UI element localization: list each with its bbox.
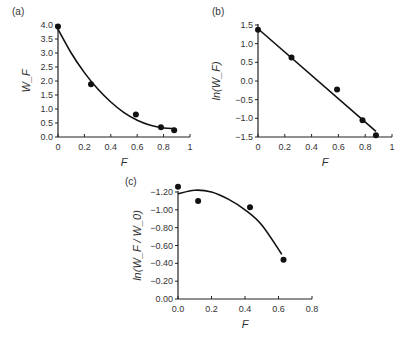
x-tick-label: 0.2 xyxy=(78,142,91,152)
data-point xyxy=(175,184,181,190)
y-tick-label: 4.0 xyxy=(40,20,53,30)
chart-panel-c: 0.00−0.20−0.40−0.60−0.80−1.00−1.200.00.2… xyxy=(125,176,318,330)
y-tick-label: 1.5 xyxy=(240,20,253,30)
x-tick-label: 0.8 xyxy=(306,304,319,314)
y-axis-label: ln(W_F / W_0) xyxy=(131,210,143,281)
x-tick-label: 0.6 xyxy=(332,142,345,152)
x-axis-label: F xyxy=(121,156,129,168)
x-axis-label: F xyxy=(242,318,250,330)
x-tick-label: 0.6 xyxy=(131,142,144,152)
y-tick-label: 1.0 xyxy=(240,39,253,49)
x-tick-label: 0.8 xyxy=(157,142,170,152)
y-tick-label: 0.5 xyxy=(240,57,253,67)
x-tick-label: 0.0 xyxy=(172,304,185,314)
y-axis-label: ln(W_F) xyxy=(210,61,222,100)
y-tick-label: 0.0 xyxy=(240,76,253,86)
y-tick-label: 3.5 xyxy=(40,34,53,44)
figure: 0.00.51.01.52.02.53.03.54.000.20.40.60.8… xyxy=(0,0,405,339)
y-tick-label: −1.0 xyxy=(235,113,253,123)
data-point xyxy=(158,124,164,130)
fit-curve xyxy=(258,29,376,132)
y-tick-label: −0.60 xyxy=(150,241,173,251)
y-tick-label: 0.5 xyxy=(40,118,53,128)
data-point xyxy=(195,198,201,204)
data-point xyxy=(373,132,379,138)
data-point xyxy=(360,117,366,123)
fit-curve xyxy=(178,190,282,254)
y-tick-label: −0.20 xyxy=(150,276,173,286)
y-tick-label: 1.0 xyxy=(40,104,53,114)
x-tick-label: 0.6 xyxy=(272,304,285,314)
data-point xyxy=(334,87,340,93)
y-tick-label: −1.5 xyxy=(235,132,253,142)
chart-panel-a: 0.00.51.01.52.02.53.03.54.000.20.40.60.8… xyxy=(12,6,193,168)
panel-label: (b) xyxy=(212,6,224,17)
y-tick-label: −1.20 xyxy=(150,187,173,197)
y-tick-label: 0.0 xyxy=(40,132,53,142)
data-point xyxy=(133,112,139,118)
y-tick-label: 1.5 xyxy=(40,90,53,100)
fit-curve xyxy=(58,29,174,128)
x-tick-label: 0 xyxy=(55,142,60,152)
x-tick-label: 1 xyxy=(187,142,192,152)
data-point xyxy=(281,257,287,263)
x-tick-label: 0.4 xyxy=(105,142,118,152)
x-tick-label: 0 xyxy=(255,142,260,152)
y-tick-label: −0.80 xyxy=(150,223,173,233)
data-point xyxy=(171,127,177,133)
y-axis-label: W_F xyxy=(20,68,32,93)
y-tick-label: 2.0 xyxy=(40,76,53,86)
panel-label: (c) xyxy=(125,176,137,187)
x-axis-label: F xyxy=(322,156,330,168)
y-tick-label: 0.00 xyxy=(155,294,173,304)
x-tick-label: 0.8 xyxy=(359,142,372,152)
y-tick-label: −1.00 xyxy=(150,205,173,215)
x-tick-label: 1 xyxy=(389,142,394,152)
x-tick-label: 0.2 xyxy=(279,142,292,152)
y-tick-label: 3.0 xyxy=(40,48,53,58)
chart-panel-b: −1.5−1.0−0.50.00.51.01.500.20.40.60.81Fl… xyxy=(210,6,395,168)
x-tick-label: 0.4 xyxy=(239,304,252,314)
data-point xyxy=(289,54,295,60)
y-tick-label: 2.5 xyxy=(40,62,53,72)
x-tick-label: 0.2 xyxy=(205,304,218,314)
y-tick-label: −0.40 xyxy=(150,258,173,268)
y-tick-label: −0.5 xyxy=(235,95,253,105)
data-point xyxy=(255,27,261,33)
data-point xyxy=(247,204,253,210)
data-point xyxy=(88,81,94,87)
panel-label: (a) xyxy=(12,6,24,17)
x-tick-label: 0.4 xyxy=(305,142,318,152)
data-point xyxy=(55,23,61,29)
